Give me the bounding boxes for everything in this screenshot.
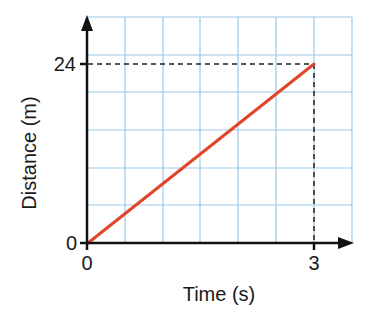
- y-tick-0: 0: [66, 232, 77, 254]
- distance-time-chart: 24 0 0 3 Time (s) Distance (m): [0, 0, 371, 318]
- x-axis-label: Time (s): [183, 283, 256, 305]
- y-axis-label: Distance (m): [18, 96, 40, 209]
- x-tick-3: 3: [308, 252, 319, 274]
- grid: [87, 17, 352, 243]
- data-line: [88, 64, 314, 243]
- x-tick-0: 0: [81, 252, 92, 274]
- y-tick-24: 24: [54, 53, 76, 75]
